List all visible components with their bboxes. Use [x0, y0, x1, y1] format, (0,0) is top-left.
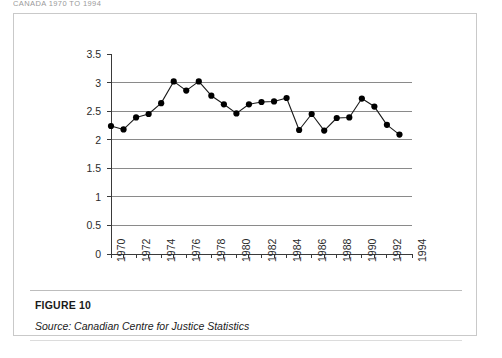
x-axis-tick-label: 1984 [292, 239, 303, 262]
figure-frame: 00.511.522.533.5 19701972197419761978198… [13, 13, 477, 336]
x-axis-tick-label: 1974 [166, 239, 177, 262]
y-axis-tick-label: 2 [71, 135, 101, 146]
chart-plot-area: 00.511.522.533.5 19701972197419761978198… [14, 14, 478, 272]
y-axis-tick-label: 0.5 [71, 220, 101, 231]
x-axis-tick-label: 1990 [367, 239, 378, 262]
caption-divider-bottom [30, 340, 462, 341]
x-axis-tick-label: 1980 [241, 239, 252, 262]
x-axis-tick-label: 1972 [141, 239, 152, 262]
y-axis-tick-label: 3 [71, 78, 101, 89]
x-axis-tick-label: 1976 [191, 239, 202, 262]
y-axis-tick-label: 3.5 [71, 49, 101, 60]
x-axis-tick-label: 1978 [216, 239, 227, 262]
figure-source: Source: Canadian Centre for Justice Stat… [35, 320, 249, 332]
figure-title: FIGURE 10 [35, 299, 91, 311]
x-axis-tick-label: 1982 [267, 239, 278, 262]
x-axis-tick-label: 1994 [417, 239, 428, 262]
y-axis-tick-label: 1.5 [71, 163, 101, 174]
y-axis-tick-label: 1 [71, 192, 101, 203]
y-axis-tick-label: 2.5 [71, 106, 101, 117]
x-axis-tick-label: 1992 [392, 239, 403, 262]
y-axis-tick-label: 0 [71, 249, 101, 260]
figure-page: CANADA 1970 TO 1994 00.511.522.533.5 197… [0, 0, 502, 358]
caption-divider-top [30, 290, 462, 291]
running-head: CANADA 1970 TO 1994 [13, 0, 101, 6]
x-axis-tick-label: 1986 [317, 239, 328, 262]
x-axis-tick-label: 1988 [342, 239, 353, 262]
x-axis-tick-label: 1970 [116, 239, 127, 262]
